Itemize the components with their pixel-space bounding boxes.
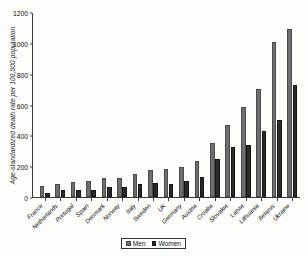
bar-group (68, 13, 83, 197)
bar-group (145, 13, 160, 197)
legend-label: Women (158, 240, 181, 247)
bar-men (40, 186, 45, 197)
legend-box: MenWomen (121, 238, 186, 249)
bar-group (83, 13, 98, 197)
x-label-cell: Ukraine (285, 200, 300, 242)
bar-men (164, 169, 169, 197)
bar-men (55, 184, 60, 197)
bar-women (293, 85, 298, 197)
bar-men (195, 161, 200, 197)
bar-women (215, 159, 220, 197)
bar-men (210, 143, 215, 197)
legend-swatch-icon (126, 241, 131, 246)
bar-group (285, 13, 300, 197)
bar-men (148, 170, 153, 197)
bar-women (184, 181, 189, 197)
bar-group (99, 13, 114, 197)
bar-women (61, 190, 66, 197)
bar-group (52, 13, 67, 197)
bar-group (37, 13, 52, 197)
bar-men (117, 178, 122, 197)
bar-group (192, 13, 207, 197)
bar-women (122, 187, 127, 197)
bar-women (246, 145, 251, 197)
legend-item-men[interactable]: Men (126, 240, 146, 247)
bar-men (102, 178, 107, 197)
bar-men (225, 125, 230, 197)
bar-group (238, 13, 253, 197)
bar-men (71, 182, 76, 197)
bar-women (262, 131, 267, 197)
bar-men (133, 174, 138, 197)
bar-chart: Age-standardized death rate per 100,000 … (0, 0, 307, 256)
bar-men (256, 89, 261, 197)
bar-men (179, 167, 184, 197)
bar-women (277, 120, 282, 197)
bar-women (153, 183, 158, 197)
bar-group (130, 13, 145, 197)
y-axis-title: Age-standardized death rate per 100,000 … (9, 11, 16, 201)
bar-women (45, 193, 50, 197)
legend-label: Men (133, 240, 146, 247)
bar-women (231, 147, 236, 197)
bar-men (287, 29, 292, 197)
bar-men (241, 107, 246, 197)
bar-men (86, 181, 91, 197)
plot-area: 020040060080010001200 (32, 13, 300, 198)
legend-item-women[interactable]: Women (152, 240, 181, 247)
bar-series-layer (32, 13, 300, 197)
bar-men (272, 42, 277, 197)
bar-women (107, 187, 112, 197)
bar-women (169, 184, 174, 197)
legend: MenWomen (0, 238, 307, 249)
bar-women (138, 184, 143, 197)
x-axis-labels: FranceNetherlandsPortugalSpainDenmarkNor… (32, 200, 300, 242)
bar-group (114, 13, 129, 197)
bar-women (200, 177, 205, 197)
legend-swatch-icon (152, 241, 157, 246)
bar-group (269, 13, 284, 197)
bar-group (176, 13, 191, 197)
bar-group (161, 13, 176, 197)
bar-group (207, 13, 222, 197)
bar-women (76, 190, 81, 197)
bar-women (91, 190, 96, 197)
bar-group (223, 13, 238, 197)
bar-group (254, 13, 269, 197)
